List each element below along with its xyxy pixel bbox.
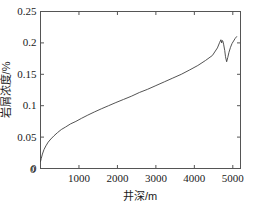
y-tick-label: 0.2 <box>23 36 37 48</box>
y-tick-label: 0 <box>31 162 37 174</box>
y-tick-label: 0.05 <box>17 131 37 143</box>
x-tick-label: 2000 <box>106 172 129 184</box>
chart-figure: 010002000300040005000 00.050.10.150.20.2… <box>0 0 254 205</box>
x-tick-label: 5000 <box>222 172 245 184</box>
y-tick-label: 0.15 <box>17 68 37 80</box>
x-tick-label: 4000 <box>183 172 206 184</box>
x-axis-label: 井深/m <box>123 189 157 202</box>
x-tick-label: 1000 <box>68 172 91 184</box>
y-axis-label: 岩屑浓度/% <box>0 61 12 118</box>
x-tick-label: 3000 <box>145 172 168 184</box>
cuttings-concentration-line-chart: 010002000300040005000 00.050.10.150.20.2… <box>0 0 254 205</box>
y-tick-label: 0.1 <box>23 99 37 111</box>
y-tick-label: 0.25 <box>17 5 37 17</box>
